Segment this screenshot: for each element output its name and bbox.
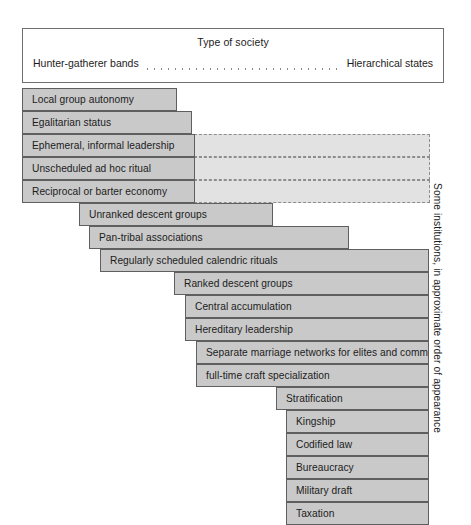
society-spectrum-row: Hunter-gatherer bands Hierarchical state…	[33, 55, 433, 71]
institution-bar-label: Unscheduled ad hoc ritual	[23, 163, 151, 174]
institution-bar: Unranked descent groups	[79, 203, 273, 226]
bar-dashed-extension	[194, 134, 430, 157]
type-of-society-box: Type of society Hunter-gatherer bands Hi…	[22, 28, 444, 83]
institution-bar-label: Pan-tribal associations	[90, 232, 203, 243]
bar-dashed-extension	[194, 157, 430, 180]
institution-bar: Taxation	[286, 502, 429, 525]
bar-dashed-extension	[194, 180, 430, 203]
institution-bar: Military draft	[286, 479, 429, 502]
institution-bar-label: Kingship	[287, 416, 335, 427]
institution-bar-label: Regularly scheduled calendric rituals	[101, 255, 278, 266]
institution-bar-label: Military draft	[287, 485, 352, 496]
institution-bar: Pan-tribal associations	[89, 226, 349, 249]
institution-bar: Bureaucracy	[286, 456, 429, 479]
institution-bar-label: Unranked descent groups	[80, 209, 207, 220]
institution-bar: full-time craft specialization	[196, 364, 429, 387]
institution-bar-label: Ephemeral, informal leadership	[23, 140, 175, 151]
institution-bar-label: Codified law	[287, 439, 352, 450]
institution-bar-label: Egalitarian status	[23, 117, 111, 128]
institution-bar-label: Ranked descent groups	[175, 278, 293, 289]
dotted-leader-line	[144, 60, 342, 70]
institution-bar-label: Central accumulation	[186, 301, 292, 312]
institution-bar-label: Bureaucracy	[287, 462, 354, 473]
institution-bar: Kingship	[286, 410, 429, 433]
side-caption: Some institutions, in approximate order …	[425, 183, 443, 483]
institution-bar: Reciprocal or barter economy	[22, 180, 195, 203]
institution-bar-label: Stratification	[277, 393, 343, 404]
spectrum-left-label: Hunter-gatherer bands	[33, 57, 139, 69]
institution-bar: Hereditary leadership	[185, 318, 429, 341]
institution-bar: Ephemeral, informal leadership	[22, 134, 195, 157]
institution-bar: Egalitarian status	[22, 111, 192, 134]
institution-bar: Stratification	[276, 387, 429, 410]
spectrum-right-label: Hierarchical states	[347, 57, 433, 69]
institution-bar-label: Reciprocal or barter economy	[23, 186, 167, 197]
institution-bar: Separate marriage networks for elites an…	[196, 341, 429, 364]
institution-bar-label: Taxation	[287, 508, 334, 519]
institution-bar: Unscheduled ad hoc ritual	[22, 157, 195, 180]
institution-bar-label: Hereditary leadership	[186, 324, 293, 335]
institution-bar-label: full-time craft specialization	[197, 370, 330, 381]
institution-bar: Local group autonomy	[22, 88, 177, 111]
institution-bar-label: Local group autonomy	[23, 94, 134, 105]
institution-bar: Ranked descent groups	[174, 272, 429, 295]
institution-bar: Central accumulation	[185, 295, 429, 318]
institution-bar: Regularly scheduled calendric rituals	[100, 249, 429, 272]
type-of-society-title: Type of society	[23, 36, 443, 48]
institution-bar-label: Separate marriage networks for elites an…	[197, 347, 429, 358]
institution-bar: Codified law	[286, 433, 429, 456]
